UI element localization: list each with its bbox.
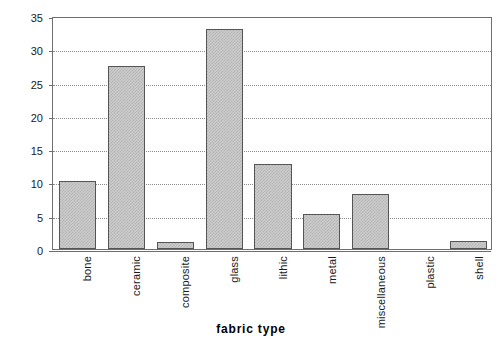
- y-tick-label: 25: [9, 79, 43, 91]
- y-tick-label: 35: [9, 12, 43, 24]
- y-tick-label: 30: [9, 45, 43, 57]
- bar-slot: [297, 18, 346, 249]
- bar: [303, 214, 340, 249]
- bar-slot: [151, 18, 200, 249]
- x-tick-label: ceramic: [130, 256, 142, 296]
- x-tick-label: miscellaneous: [375, 256, 387, 328]
- bar-series: [53, 18, 491, 249]
- x-tick-label: composite: [179, 256, 191, 308]
- bar-slot: [200, 18, 249, 249]
- bar: [206, 29, 243, 249]
- bar-slot: [444, 18, 493, 249]
- y-tick-label: 0: [9, 245, 43, 257]
- bar-slot: [102, 18, 151, 249]
- gridline-0: [53, 251, 491, 252]
- x-axis-title: fabric type: [0, 322, 502, 336]
- y-tick-mark-0: [49, 251, 53, 252]
- y-tick-label: 15: [9, 145, 43, 157]
- y-tick-label: 5: [9, 212, 43, 224]
- x-tick-label: plastic: [424, 256, 436, 289]
- bar-chart: percentage 05101520253035 boneceramiccom…: [0, 0, 502, 348]
- x-tick-label: lithic: [277, 256, 289, 279]
- y-tick-label: 20: [9, 112, 43, 124]
- x-tick-label: metal: [326, 256, 338, 284]
- x-tick-label: bone: [81, 256, 93, 281]
- x-tick-label: glass: [228, 256, 240, 283]
- bar: [254, 164, 291, 249]
- bar-slot: [249, 18, 298, 249]
- y-tick-label: 10: [9, 178, 43, 190]
- x-tick-label: shell: [473, 256, 485, 280]
- bar: [157, 242, 194, 249]
- bar: [59, 181, 96, 249]
- bar-slot: [346, 18, 395, 249]
- bar-slot: [395, 18, 444, 249]
- bar-slot: [53, 18, 102, 249]
- bar: [450, 241, 487, 249]
- plot-area: 05101520253035: [52, 17, 492, 250]
- bar: [108, 66, 145, 249]
- bar: [352, 194, 389, 249]
